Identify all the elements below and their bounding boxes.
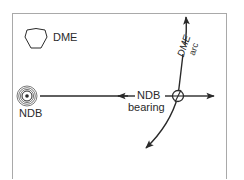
- navigation-diagram: [0, 0, 244, 180]
- ndb-station-icon: [17, 86, 37, 106]
- dme-station-icon: [25, 29, 47, 49]
- bearing-label-line1: NDB: [136, 90, 161, 101]
- ndb-station-label: NDB: [19, 108, 42, 119]
- dme-station-label: DME: [53, 32, 77, 43]
- fix-circle-icon: [173, 90, 184, 102]
- bearing-label-line2: bearing: [128, 102, 165, 113]
